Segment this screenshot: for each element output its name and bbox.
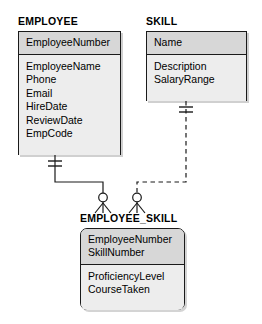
attribute-proficiencylevel: ProficiencyLevel xyxy=(88,270,177,283)
er-diagram-canvas: EMPLOYEE EmployeeNumber EmployeeName Pho… xyxy=(0,0,262,324)
entity-employee-skill-box[interactable]: EmployeeNumber SkillNumber ProficiencyLe… xyxy=(80,228,185,310)
attribute-phone: Phone xyxy=(26,73,113,86)
entity-employee-skill-attribute-compartment: ProficiencyLevel CourseTaken xyxy=(81,265,184,310)
entity-employee-skill-key-compartment: EmployeeNumber SkillNumber xyxy=(81,229,184,265)
entity-employee-key-compartment: EmployeeNumber xyxy=(19,32,120,55)
entity-skill-attribute-compartment: Description SalaryRange xyxy=(147,55,246,101)
cardinality-optional-circle-2 xyxy=(133,193,142,202)
relationship-line-solid xyxy=(55,155,103,193)
entity-employee-skill-title: EMPLOYEE_SKILL xyxy=(80,212,177,224)
attribute-hiredate: HireDate xyxy=(26,100,113,113)
entity-employee-attribute-compartment: EmployeeName Phone Email HireDate Review… xyxy=(19,55,120,155)
attribute-reviewdate: ReviewDate xyxy=(26,114,113,127)
attribute-skillnumber: SkillNumber xyxy=(88,246,177,259)
entity-skill-title: SKILL xyxy=(146,15,177,27)
relationship-skill-employee-skill[interactable] xyxy=(129,101,193,213)
entity-employee-title: EMPLOYEE xyxy=(18,15,78,27)
attribute-empcode: EmpCode xyxy=(26,127,113,140)
attribute-salaryrange: SalaryRange xyxy=(154,73,239,86)
attribute-es-employeenumber: EmployeeNumber xyxy=(88,233,177,246)
cardinality-optional-circle xyxy=(99,193,108,202)
attribute-employeenumber: EmployeeNumber xyxy=(26,36,113,49)
relationship-employee-employee-skill[interactable] xyxy=(48,155,111,213)
attribute-employeename: EmployeeName xyxy=(26,60,113,73)
attribute-name: Name xyxy=(154,36,239,49)
attribute-email: Email xyxy=(26,87,113,100)
entity-skill-key-compartment: Name xyxy=(147,32,246,55)
entity-skill-box[interactable]: Name Description SalaryRange xyxy=(146,31,247,101)
attribute-description: Description xyxy=(154,60,239,73)
relationship-line-dashed xyxy=(137,101,186,193)
attribute-coursetaken: CourseTaken xyxy=(88,283,177,296)
entity-employee-box[interactable]: EmployeeNumber EmployeeName Phone Email … xyxy=(18,31,121,155)
